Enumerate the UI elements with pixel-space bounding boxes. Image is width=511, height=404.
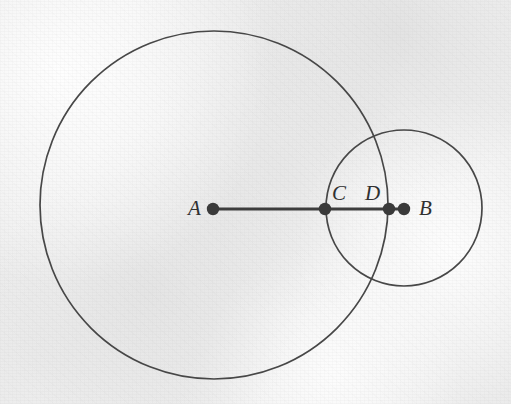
point-B-dot xyxy=(398,203,410,215)
point-C-dot xyxy=(319,203,331,215)
point-label-C: C xyxy=(332,183,346,204)
point-D-dot xyxy=(383,203,395,215)
point-A-dot xyxy=(207,203,219,215)
point-label-A: A xyxy=(188,198,201,219)
point-label-D: D xyxy=(365,183,380,204)
geometry-canvas xyxy=(0,0,511,404)
geometry-figure: A C D B xyxy=(0,0,511,404)
point-label-B: B xyxy=(419,198,432,219)
